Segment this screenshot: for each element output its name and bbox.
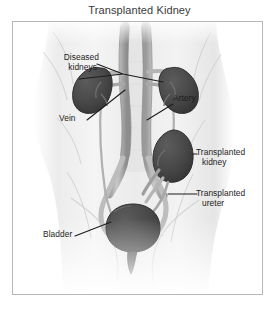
label-diseased-kidneys: Diseased kidneys bbox=[27, 52, 99, 73]
label-artery-line1: Artery bbox=[173, 93, 196, 103]
label-transplanted-kidney-line1: Transplanted bbox=[196, 147, 245, 157]
label-bladder-line1: Bladder bbox=[43, 229, 72, 239]
label-vein-line1: Vein bbox=[59, 113, 76, 123]
label-transplanted-kidney-line2: kidney bbox=[196, 157, 262, 167]
figure-frame: Diseased kidneys Vein Artery Transplante… bbox=[12, 21, 263, 295]
label-transplanted-ureter: Transplanted ureter bbox=[196, 188, 262, 209]
label-diseased-kidneys-line1: Diseased bbox=[64, 52, 99, 62]
label-diseased-kidneys-line2: kidneys bbox=[27, 62, 99, 72]
label-transplanted-kidney: Transplanted kidney bbox=[196, 147, 262, 168]
label-vein: Vein bbox=[59, 113, 76, 123]
figure-title: Transplanted Kidney bbox=[0, 3, 279, 17]
label-transplanted-ureter-line2: ureter bbox=[196, 198, 262, 208]
label-bladder: Bladder bbox=[43, 229, 72, 239]
label-transplanted-ureter-line1: Transplanted bbox=[196, 188, 245, 198]
label-artery: Artery bbox=[173, 93, 196, 103]
figure-container: Transplanted Kidney bbox=[0, 0, 279, 310]
